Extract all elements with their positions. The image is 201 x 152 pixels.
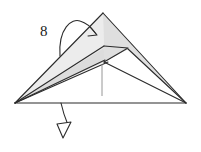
fold-arrow-bottom-head	[57, 122, 71, 138]
origami-diagram-figure: 8	[0, 0, 201, 152]
fold-arrow-bottom-curve	[61, 103, 68, 125]
origami-illustration: 8	[0, 0, 201, 152]
fold-arrow-bottom	[57, 103, 71, 138]
step-number-label: 8	[40, 23, 48, 39]
